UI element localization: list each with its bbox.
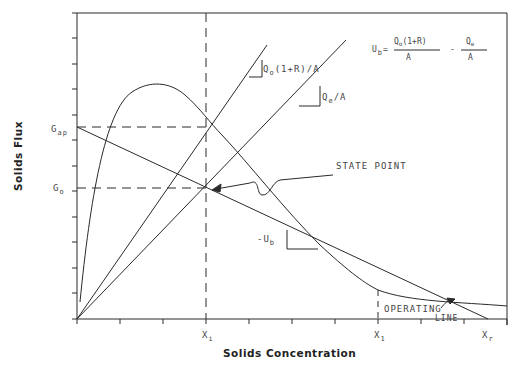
underflow-rate-line xyxy=(77,45,267,319)
x-axis-title: Solids Concentration xyxy=(223,347,356,359)
ub-slope-label: -Ub xyxy=(257,234,275,244)
g-ap-label: Gap xyxy=(51,124,68,134)
operating-line-label-1: OPERATING xyxy=(384,304,442,314)
underflow-slope-label: Qo(1+R)/A xyxy=(263,64,320,74)
y-axis-title: Solids Flux xyxy=(12,121,24,191)
x-i-label: Xi xyxy=(202,330,214,340)
operating-line xyxy=(77,127,488,319)
equation-frac2-numerator: Qe xyxy=(466,37,474,46)
g-o-label: Go xyxy=(53,183,65,193)
x-1-label: X1 xyxy=(374,330,386,340)
equation-minus: - xyxy=(450,45,455,54)
effluent-rate-line xyxy=(77,40,346,319)
equation-frac2-denominator: A xyxy=(468,53,473,62)
effluent-slope-label: Qe/A xyxy=(322,92,346,102)
slope-marker-effluent xyxy=(299,86,320,106)
state-point-arrowhead xyxy=(212,184,221,192)
operating-line-label-2: LINE xyxy=(435,314,458,323)
y-axis-ticks xyxy=(72,13,77,319)
equation-lhs: Ub= xyxy=(372,45,389,54)
equation-frac1-numerator: Qo(1+R) xyxy=(394,37,427,46)
batch-flux-curve xyxy=(80,84,507,306)
x-r-label: Xr xyxy=(482,330,494,340)
state-point-label: STATE POINT xyxy=(336,161,407,171)
state-point-arrow xyxy=(216,175,333,195)
equation-frac1-denominator: A xyxy=(406,53,411,62)
